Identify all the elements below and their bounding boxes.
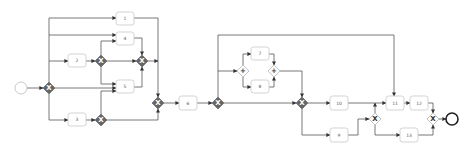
x-icon: X — [139, 57, 145, 65]
sequence-flow-5-to-g3 — [134, 67, 142, 87]
sequence-flow-g2-to-4 — [101, 41, 116, 55]
process-diagram: 14253678109111213XXXXXX++XXX — [0, 0, 471, 150]
task-label: 1 — [124, 16, 127, 21]
sequence-flow-g1-to-3 — [49, 94, 68, 120]
task-8: 8 — [251, 80, 269, 93]
task-label: 11 — [392, 101, 398, 106]
x-icon: X — [430, 115, 436, 123]
exclusive-gateway-g2: X — [95, 55, 107, 67]
task-label: 5 — [124, 84, 127, 89]
task-label: 6 — [187, 101, 190, 106]
sequence-flow-12-to-g11 — [428, 103, 433, 113]
exclusive-gateway-g10: X — [369, 113, 381, 125]
edges-layer — [27, 18, 446, 135]
exclusive-gateway-g4: X — [95, 114, 107, 126]
task-11: 11 — [386, 96, 404, 110]
sequence-flow-9-to-g10 — [348, 119, 369, 135]
x-icon: X — [372, 115, 378, 123]
x-icon: X — [98, 57, 104, 65]
task-label: 2 — [76, 58, 79, 63]
plus-icon: + — [271, 67, 277, 75]
plus-icon: + — [240, 67, 246, 75]
task-label: 4 — [124, 36, 127, 41]
task-4: 4 — [116, 32, 134, 45]
task-2: 2 — [68, 54, 86, 67]
sequence-flow-g2-to-5 — [101, 67, 116, 84]
task-10: 10 — [330, 96, 348, 110]
exclusive-gateway-g6: X — [212, 97, 224, 109]
task-label: 12 — [416, 101, 422, 106]
exclusive-gateway-g9: X — [296, 97, 308, 109]
parallel-gateway-g7: + — [237, 65, 249, 77]
sequence-flow-1-to-g5 — [134, 18, 158, 97]
x-icon: X — [299, 99, 305, 107]
task-1: 1 — [116, 12, 134, 25]
diagram-svg: 14253678109111213XXXXXX++XXX — [0, 0, 471, 150]
task-label: 7 — [259, 51, 262, 56]
task-label: 13 — [406, 133, 412, 138]
sequence-flow-13-to-g11 — [418, 125, 433, 135]
x-icon: X — [155, 99, 161, 107]
task-label: 3 — [76, 117, 79, 122]
task-3: 3 — [68, 113, 86, 126]
task-label: 10 — [336, 101, 342, 106]
task-12: 12 — [410, 96, 428, 110]
sequence-flow-g9-to-9 — [302, 109, 330, 135]
sequence-flow-4-to-g3 — [134, 38, 142, 55]
parallel-gateway-g8: + — [268, 65, 280, 77]
x-icon: X — [215, 99, 221, 107]
sequence-flow-g4-to-5 — [101, 91, 116, 114]
task-label: 9 — [338, 133, 341, 138]
sequence-flow-g1-to-1 — [49, 18, 116, 82]
task-13: 13 — [400, 128, 418, 142]
task-9: 9 — [330, 128, 348, 142]
x-icon: X — [98, 116, 104, 124]
task-5: 5 — [116, 80, 134, 93]
exclusive-gateway-g3: X — [136, 55, 148, 67]
nodes-layer: 14253678109111213XXXXXX++XXX — [15, 12, 458, 142]
end-event — [446, 113, 458, 125]
task-7: 7 — [251, 47, 269, 60]
exclusive-gateway-g11: X — [427, 113, 439, 125]
sequence-flow-g7-to-7 — [243, 54, 251, 65]
sequence-flow-g7-to-8 — [243, 77, 251, 87]
task-6: 6 — [179, 96, 197, 110]
start-event — [15, 82, 27, 94]
sequence-flow-7-to-g8 — [269, 54, 274, 65]
task-label: 8 — [259, 84, 262, 89]
exclusive-gateway-g5: X — [152, 97, 164, 109]
sequence-flow-8-to-g8 — [269, 77, 274, 87]
sequence-flow-g8-to-g9 — [280, 71, 302, 97]
sequence-flow-g10-to-13 — [375, 125, 400, 135]
x-icon: X — [46, 84, 52, 92]
exclusive-gateway-g1: X — [43, 82, 55, 94]
sequence-flow-g4-to-g5 — [107, 109, 158, 120]
